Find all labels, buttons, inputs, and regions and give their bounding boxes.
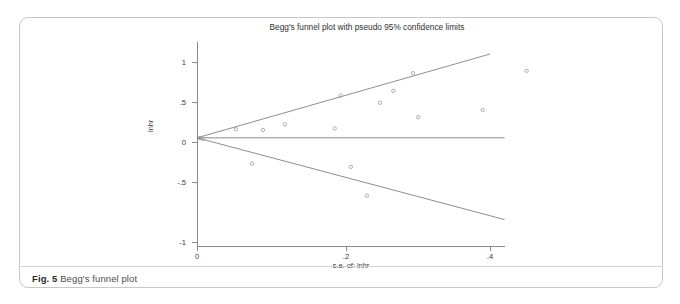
- data-point: [261, 128, 264, 131]
- data-point: [378, 101, 381, 104]
- data-point: [283, 123, 286, 126]
- data-point: [392, 89, 395, 92]
- upper-confidence-limit: [197, 54, 490, 138]
- funnel-plot: Begg's funnel plot with pseudo 95% confi…: [0, 0, 680, 304]
- lower-confidence-limit: [197, 138, 505, 220]
- data-point: [411, 72, 414, 75]
- data-point: [333, 127, 336, 130]
- plot-data-layer: [0, 0, 680, 304]
- caption-divider: [19, 266, 663, 267]
- screenshot-root: Begg's funnel plot with pseudo 95% confi…: [0, 0, 680, 304]
- data-point: [365, 194, 368, 197]
- data-point: [250, 162, 253, 165]
- data-point: [234, 128, 237, 131]
- figure-caption-text: Begg's funnel plot: [60, 273, 137, 284]
- funnel-lines: [197, 54, 505, 220]
- data-point: [349, 165, 352, 168]
- data-point: [481, 108, 484, 111]
- data-point: [525, 69, 528, 72]
- figure-caption-label: Fig. 5: [32, 273, 57, 284]
- data-point: [417, 116, 420, 119]
- data-points: [198, 69, 528, 197]
- figure-caption: Fig. 5 Begg's funnel plot: [32, 273, 137, 284]
